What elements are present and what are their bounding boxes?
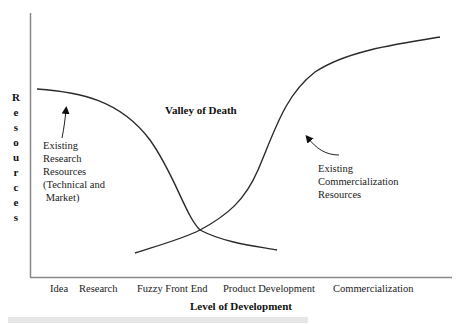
x-tick-fuzzy-front-end: Fuzzy Front End	[137, 283, 208, 294]
y-axis-letter: o	[11, 135, 21, 150]
y-axis-letter: e	[11, 195, 21, 210]
y-axis-letter: s	[11, 120, 21, 135]
annotation-line: Resources	[43, 165, 105, 178]
research-annotation-arrow	[62, 110, 66, 138]
annotation-line: Research	[43, 152, 105, 165]
y-axis-letter: e	[11, 105, 21, 120]
y-axis-letter: c	[11, 180, 21, 195]
y-axis-title: R e s o u r c e s	[11, 90, 21, 225]
annotation-line: Resources	[318, 188, 398, 201]
annotation-line: (Technical and	[43, 178, 105, 191]
annotation-line: Existing	[318, 162, 398, 175]
research-resources-annotation: Existing Research Resources (Technical a…	[43, 139, 105, 204]
cropped-caption	[8, 317, 308, 323]
y-axis-letter: R	[11, 90, 21, 105]
x-tick-commercialization: Commercialization	[333, 283, 413, 294]
x-tick-product-development: Product Development	[223, 283, 315, 294]
annotation-line: Commercialization	[318, 175, 398, 188]
y-axis-letter: r	[11, 165, 21, 180]
commercialization-annotation-arrow	[308, 138, 339, 155]
x-tick-research: Research	[79, 283, 117, 294]
x-axis-title: Level of Development	[190, 300, 292, 312]
annotation-line: Existing	[43, 139, 105, 152]
y-axis-letter: s	[11, 210, 21, 225]
commercialization-resources-annotation: Existing Commercialization Resources	[318, 162, 398, 201]
annotation-line: Market)	[43, 191, 105, 204]
x-tick-idea: Idea	[50, 283, 68, 294]
commercialization-resources-curve	[135, 37, 440, 253]
diagram-title: Valley of Death	[165, 104, 237, 116]
y-axis-letter: u	[11, 150, 21, 165]
valley-of-death-diagram: R e s o u r c e s Valley of Death Existi…	[0, 0, 465, 324]
